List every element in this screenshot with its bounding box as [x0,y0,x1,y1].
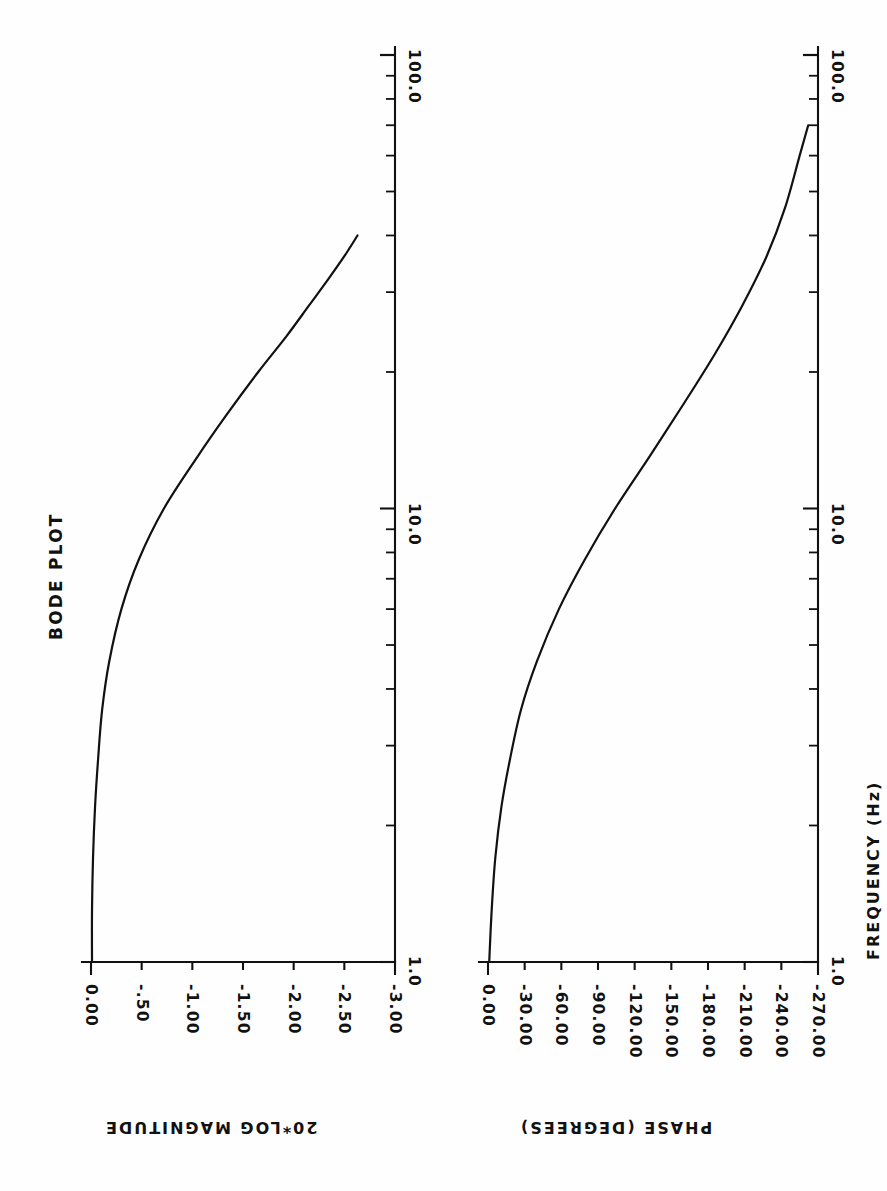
axis-tick-label: 0.00 [480,984,496,1027]
frequency-tick-label: 10.0 [829,503,845,546]
page-title: BODE PLOT [48,512,65,640]
frequency-tick-label: 10.0 [406,503,422,546]
axis-tick-label: -1.50 [235,984,251,1035]
phase-axes [479,47,818,975]
axis-tick-label: -60.00 [553,984,569,1047]
phase-axis-title: PHASE (DEGREES) [519,1119,712,1135]
axis-tick-label: -150.00 [663,984,679,1059]
axis-tick-label: -2.50 [336,984,352,1035]
axis-tick-label: -240.00 [773,984,789,1059]
axis-tick-label: -3.00 [387,984,403,1035]
axis-tick-label: -180.00 [700,984,716,1059]
frequency-tick-label: 100.0 [406,49,422,104]
axis-tick-label: -210.00 [736,984,752,1059]
axis-tick-label: -1.00 [184,984,200,1035]
phase-curve [489,125,808,962]
axis-tick-label: -90.00 [590,984,606,1047]
axis-tick-label: -270.00 [810,984,826,1059]
magnitude-curve [92,235,358,962]
frequency-tick-label: 1.0 [406,956,422,987]
axis-tick-label: -30.00 [516,984,532,1047]
frequency-tick-label: 1.0 [829,956,845,987]
axis-tick-label: -120.00 [626,984,642,1059]
frequency-tick-label: 100.0 [829,49,845,104]
bode-plot-figure: BODE PLOT FREQUENCY (Hz) 20*LOG MAGNITUD… [0,0,887,1191]
magnitude-axis-title: 20*LOG MAGNITUDE [104,1119,317,1135]
magnitude-axes [82,47,395,975]
axis-tick-label: -.50 [133,984,149,1023]
axis-tick-label: -2.00 [285,984,301,1035]
frequency-axis-title: FREQUENCY (Hz) [866,781,882,960]
axis-tick-label: 0.00 [83,984,99,1027]
